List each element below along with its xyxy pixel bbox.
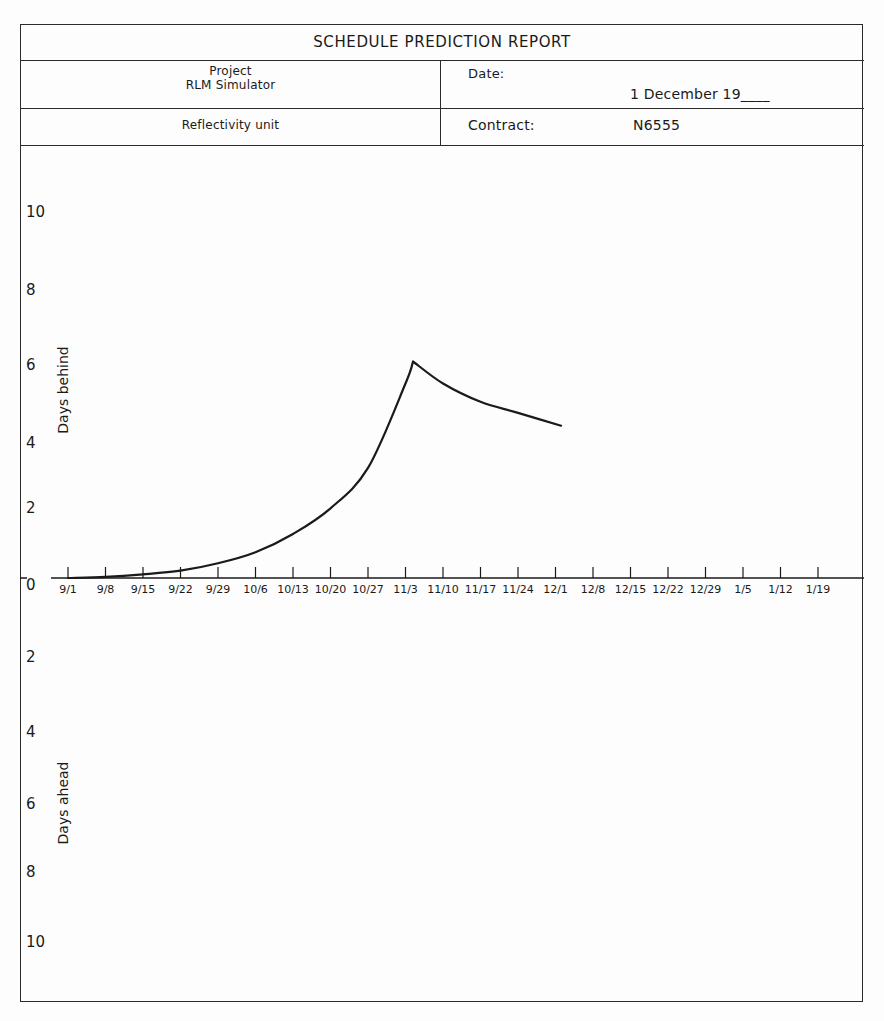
x-tick-label: 10/27 [352, 583, 384, 596]
y-tick-label-ahead: 10 [26, 933, 45, 951]
y-tick-label-ahead: 4 [26, 723, 36, 741]
schedule-deviation-line [68, 362, 561, 579]
x-tick-label: 11/3 [393, 583, 418, 596]
x-tick-label: 12/15 [615, 583, 647, 596]
x-tick-label: 9/1 [59, 583, 77, 596]
x-tick-label: 1/5 [734, 583, 752, 596]
x-tick-label: 9/15 [131, 583, 156, 596]
x-tick-label: 11/10 [427, 583, 459, 596]
x-tick-label: 10/6 [243, 583, 268, 596]
y-tick-label-ahead: 8 [26, 863, 36, 881]
x-ticks [68, 567, 818, 578]
x-tick-label: 9/8 [97, 583, 115, 596]
x-tick-label: 9/29 [206, 583, 231, 596]
x-tick-label: 1/19 [806, 583, 831, 596]
y-tick-label-ahead: 2 [26, 648, 36, 666]
y-tick-label-behind: 8 [26, 281, 36, 299]
y-tick-label-behind: 2 [26, 499, 36, 517]
x-tick-label: 10/20 [315, 583, 347, 596]
x-tick-label: 10/13 [277, 583, 309, 596]
y-axis-title-upper: Days behind [55, 346, 71, 433]
x-tick-label: 12/22 [652, 583, 684, 596]
x-tick-label: 9/22 [168, 583, 193, 596]
y-tick-label-behind: 10 [26, 203, 45, 221]
x-tick-label: 12/1 [543, 583, 568, 596]
y-tick-label-behind: 0 [26, 576, 36, 594]
y-tick-label-behind: 4 [26, 434, 36, 452]
x-tick-label: 12/29 [690, 583, 722, 596]
y-tick-label-behind: 6 [26, 356, 36, 374]
y-tick-label-ahead: 6 [26, 795, 36, 813]
x-tick-label: 1/12 [768, 583, 793, 596]
x-tick-label: 11/24 [502, 583, 534, 596]
schedule-chart: 9/19/89/159/229/2910/610/1310/2010/2711/… [0, 0, 884, 1021]
y-tick-labels: 1086420246810 [26, 203, 45, 951]
x-tick-label: 11/17 [465, 583, 497, 596]
y-axis-title-lower: Days ahead [55, 762, 71, 845]
x-tick-labels: 9/19/89/159/229/2910/610/1310/2010/2711/… [59, 583, 830, 596]
x-tick-label: 12/8 [581, 583, 606, 596]
